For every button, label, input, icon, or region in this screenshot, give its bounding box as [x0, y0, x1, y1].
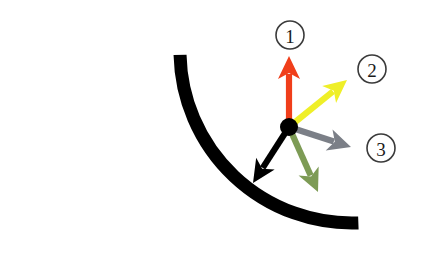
vector-diagram: 123: [0, 0, 424, 261]
label-1: 1: [276, 21, 304, 49]
diagram-canvas: 123: [0, 0, 424, 261]
label-2-text: 2: [367, 60, 377, 81]
label-3-text: 3: [376, 139, 386, 160]
label-2: 2: [358, 55, 386, 83]
object-point: [280, 118, 298, 136]
label-3: 3: [367, 134, 395, 162]
red-vector: [278, 56, 300, 127]
black-vector: [253, 127, 289, 183]
vector-group: [253, 56, 351, 192]
yellow-vector: [289, 80, 347, 127]
label-1-text: 1: [285, 26, 295, 47]
